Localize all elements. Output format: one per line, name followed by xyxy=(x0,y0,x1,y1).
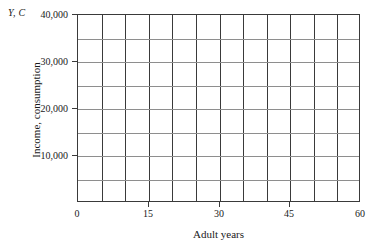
vertical-gridline xyxy=(267,15,268,201)
x-axis-tick-label: 15 xyxy=(143,208,153,219)
x-axis-title: Adult years xyxy=(77,228,360,240)
x-axis-tick-label: 30 xyxy=(214,208,224,219)
y-axis-tick-label: 30,000 xyxy=(41,56,69,67)
vertical-gridline xyxy=(125,15,126,201)
horizontal-gridline xyxy=(78,86,359,87)
vertical-gridline xyxy=(243,15,244,201)
horizontal-gridline xyxy=(78,133,359,134)
x-axis-tick-label: 60 xyxy=(355,208,365,219)
plot-area xyxy=(77,14,360,202)
y-axis-tick-label: 10,000 xyxy=(41,150,69,161)
vertical-gridline xyxy=(172,15,173,201)
x-axis-tick-mark xyxy=(148,202,149,207)
horizontal-gridline xyxy=(78,156,359,157)
y-axis-tick-label: 40,000 xyxy=(41,9,69,20)
horizontal-gridline xyxy=(78,62,359,63)
y-axis-tick-mark xyxy=(72,108,77,109)
x-axis-tick-label: 45 xyxy=(284,208,294,219)
axis-corner-label: Y, C xyxy=(8,7,26,18)
vertical-gridline xyxy=(337,15,338,201)
vertical-gridline xyxy=(220,15,221,201)
horizontal-gridline xyxy=(78,180,359,181)
vertical-gridline xyxy=(196,15,197,201)
chart-figure: Y, C Income, consumption Adult years 10,… xyxy=(0,0,378,247)
horizontal-gridline xyxy=(78,39,359,40)
vertical-gridline xyxy=(314,15,315,201)
vertical-gridline xyxy=(102,15,103,201)
y-axis-tick-mark xyxy=(72,155,77,156)
y-axis-tick-mark xyxy=(72,61,77,62)
vertical-gridline xyxy=(149,15,150,201)
x-axis-tick-label: 0 xyxy=(75,208,80,219)
x-axis-tick-mark xyxy=(219,202,220,207)
x-axis-tick-mark xyxy=(289,202,290,207)
y-axis-tick-mark xyxy=(72,14,77,15)
vertical-gridline xyxy=(290,15,291,201)
y-axis-tick-label: 20,000 xyxy=(41,103,69,114)
horizontal-gridline xyxy=(78,109,359,110)
